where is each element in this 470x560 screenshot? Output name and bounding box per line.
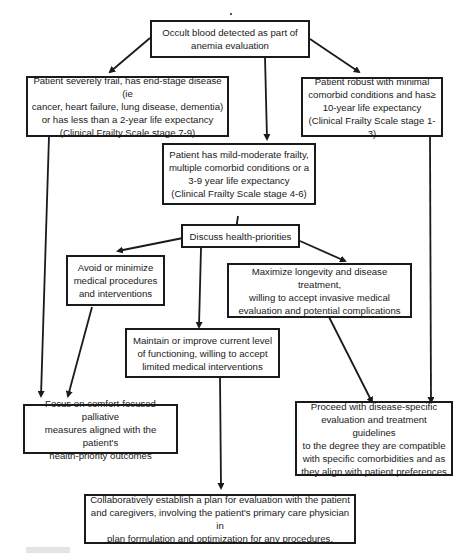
node-text: anemia evaluation: [162, 39, 297, 52]
node-text: of functioning, willing to accept: [133, 347, 272, 360]
node-text: cancer, heart failure, lung disease, dem…: [30, 100, 225, 113]
node-text: (Clinical Frailty Scale stage 4-6): [169, 187, 309, 200]
node-text: they align with patient preferences: [299, 465, 449, 478]
node-text: and interventions: [74, 287, 158, 300]
node-robust: Patient robust with minimalcomorbid cond…: [301, 77, 443, 137]
node-text: 10-year life expectancy: [305, 101, 439, 114]
node-text: evaluation and potential complications: [231, 304, 408, 317]
node-avoid-minimize: Avoid or minimizemedical proceduresand i…: [66, 255, 165, 306]
node-text: measures aligned with the patient's: [27, 423, 174, 449]
node-text: Collaboratively establish a plan for eva…: [88, 493, 352, 506]
node-text: or has less than a 2-year life expectanc…: [30, 113, 225, 126]
node-text: Patient robust with minimal: [305, 75, 439, 88]
stray-mark: [230, 13, 232, 15]
node-text: Focus on comfort-focused palliative: [27, 397, 174, 423]
faint-figure-caption: [26, 547, 70, 553]
node-disease-specific: Proceed with disease-specificevaluation …: [295, 401, 453, 476]
node-text: Patient has mild-moderate frailty,: [169, 148, 309, 161]
node-text: comorbid conditions and has≥: [305, 88, 439, 101]
node-occult-blood: Occult blood detected as part ofanemia e…: [150, 20, 310, 58]
node-text: willing to accept invasive medical: [231, 291, 408, 304]
node-text: evaluation and treatment guidelines: [299, 413, 449, 439]
node-text: and caregivers, involving the patient's …: [88, 506, 352, 532]
node-text: (Clinical Frailty Scale stage 1-3): [305, 114, 439, 140]
node-comfort-palliative: Focus on comfort-focused palliativemeasu…: [23, 404, 178, 454]
node-maximize-longevity: Maximize longevity and disease treatment…: [227, 263, 412, 318]
node-text: multiple comorbid conditions or a: [169, 161, 309, 174]
node-mild-moderate: Patient has mild-moderate frailty,multip…: [162, 143, 316, 205]
node-text: (Clinical Frailty Scale stage 7-9): [30, 126, 225, 139]
node-text: Avoid or minimize: [74, 261, 158, 274]
node-text: Occult blood detected as part of: [162, 26, 297, 39]
node-text: with specific comorbidities and as: [299, 452, 449, 465]
node-severely-frail: Patient severely frail, has end-stage di…: [26, 76, 229, 137]
node-discuss-priorities: Discuss health-priorities: [181, 224, 300, 248]
node-text: medical procedures: [74, 274, 158, 287]
node-text: 3-9 year life expectancy: [169, 174, 309, 187]
node-text: health-priority outcomes: [27, 449, 174, 462]
node-text: Maximize longevity and disease treatment…: [231, 265, 408, 291]
node-text: Maintain or improve current level: [133, 334, 272, 347]
node-text: to the degree they are compatible: [299, 439, 449, 452]
node-collaborative-plan: Collaboratively establish a plan for eva…: [84, 494, 356, 544]
node-text: plan formulation and optimization for an…: [88, 532, 352, 545]
node-text: limited medical interventions: [133, 360, 272, 373]
node-text: Proceed with disease-specific: [299, 400, 449, 413]
node-text: Patient severely frail, has end-stage di…: [30, 74, 225, 100]
node-text: Discuss health-priorities: [190, 230, 292, 243]
node-maintain-function: Maintain or improve current levelof func…: [125, 328, 280, 378]
